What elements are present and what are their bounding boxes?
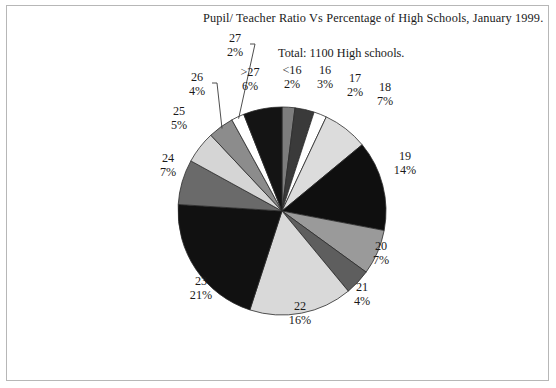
pie-label-percent-27: 2%: [220, 46, 250, 60]
pie-label-percent-17: 2%: [340, 86, 370, 100]
chart-subtitle-total: Total: 1100 High schools.: [278, 47, 404, 61]
pie-label-19: 1914%: [390, 150, 420, 177]
pie-label-category-21: 21: [347, 281, 377, 295]
chart-title: Pupil/ Teacher Ratio Vs Percentage of Hi…: [203, 12, 543, 26]
pie-label-category-17: 17: [340, 72, 370, 86]
pie-label-percent-26: 4%: [182, 85, 212, 99]
pie-label-percent-21: 4%: [347, 295, 377, 309]
pie-label-percent-16: 3%: [310, 78, 340, 92]
pie-label-23: 2321%: [186, 275, 216, 302]
pie-label-category-lt16: <16: [277, 64, 307, 78]
pie-label-25: 255%: [164, 105, 194, 132]
pie-label-category-gt27: >27: [235, 66, 265, 80]
pie-label-17: 172%: [340, 72, 370, 99]
pie-label-18: 187%: [370, 81, 400, 108]
pie-label-category-22: 22: [285, 300, 315, 314]
pie-label-percent-19: 14%: [390, 164, 420, 178]
pie-label-gt27: >276%: [235, 66, 265, 93]
pie-label-percent-22: 16%: [285, 314, 315, 328]
pie-label-16: 163%: [310, 64, 340, 91]
pie-label-percent-23: 21%: [186, 289, 216, 303]
pie-label-21: 214%: [347, 281, 377, 308]
pie-label-percent-20: 7%: [366, 254, 396, 268]
pie-label-category-23: 23: [186, 275, 216, 289]
pie-label-percent-25: 5%: [164, 119, 194, 133]
pie-label-category-20: 20: [366, 240, 396, 254]
pie-label-percent-24: 7%: [153, 166, 183, 180]
pie-label-22: 2216%: [285, 300, 315, 327]
pie-label-category-25: 25: [164, 105, 194, 119]
pie-label-category-27: 27: [220, 32, 250, 46]
pie-label-percent-18: 7%: [370, 95, 400, 109]
pie-label-percent-gt27: 6%: [235, 80, 265, 94]
pie-label-24: 247%: [153, 152, 183, 179]
pie-label-category-18: 18: [370, 81, 400, 95]
pie-label-category-16: 16: [310, 64, 340, 78]
pie-label-category-26: 26: [182, 71, 212, 85]
pie-label-category-19: 19: [390, 150, 420, 164]
pie-label-20: 207%: [366, 240, 396, 267]
pie-label-26: 264%: [182, 71, 212, 98]
leader-line-26: [212, 83, 222, 129]
pie-label-27: 272%: [220, 32, 250, 59]
pie-label-category-24: 24: [153, 152, 183, 166]
pie-label-lt16: <162%: [277, 64, 307, 91]
pie-label-percent-lt16: 2%: [277, 78, 307, 92]
